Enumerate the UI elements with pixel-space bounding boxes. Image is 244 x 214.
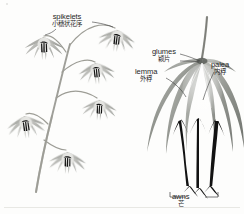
stray-speck: [6, 3, 7, 4]
label-glumes: glumes 颖片: [152, 48, 176, 62]
botanical-figure: [0, 0, 244, 214]
label-palea-zh: 内稃: [211, 69, 229, 76]
label-awns-zh: 芒: [172, 201, 189, 208]
label-palea: palea 内稃: [211, 61, 229, 75]
label-lemma: lemma 外稃: [135, 68, 157, 82]
label-spikelets-zh: 小穗状花序: [52, 21, 82, 28]
label-lemma-zh: 外稃: [135, 76, 157, 83]
label-glumes-zh: 颖片: [152, 56, 176, 63]
label-awns: awns 芒: [172, 193, 189, 207]
label-spikelets: spikelets 小穗状花序: [52, 13, 82, 27]
